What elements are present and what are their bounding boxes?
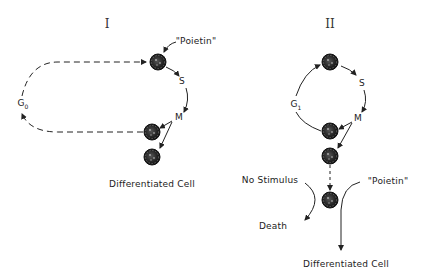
poietin-label: "Poietin" [368,176,408,186]
diagram-two [296,54,366,250]
g1-label: G1 [290,99,301,111]
g0-label: G0 [17,98,28,110]
poietin-label: "Poietin" [176,36,216,46]
cell-committed-icon [322,192,338,208]
arc-to-g1 [296,112,321,131]
differentiated-cell-label: Differentiated Cell [303,259,389,269]
m-phase-label: M [354,113,362,123]
arrow-m-to-daughter [338,123,352,148]
arrow-to-death [305,183,315,220]
differentiated-cell-label: Differentiated Cell [109,179,195,189]
diagram-two-title: II [325,17,334,31]
no-stimulus-label: No Stimulus [242,175,298,185]
arrow-to-differentiated [341,182,360,250]
s-phase-label: S [179,76,185,86]
m-phase-label: M [175,112,183,122]
arrow-to-s [341,66,356,75]
death-label: Death [259,221,287,231]
poietin-arrow [164,42,176,52]
cell-mitosis-icon [144,124,160,140]
diagram-one [22,42,188,165]
arrow-s-to-m [184,88,188,112]
arrow-to-s [166,67,179,76]
arc-from-g1 [296,65,320,96]
cell-top-icon [150,54,166,70]
cell-mitosis-icon [322,123,338,139]
arrow-s-to-m [362,90,366,112]
cell-daughter-icon [322,148,338,164]
cell-top-icon [322,54,338,70]
dashed-arrow-from-g0 [22,62,146,96]
s-phase-label: S [359,78,365,88]
arrow-m-to-diff [160,122,172,148]
diagram-one-title: I [105,17,110,31]
cell-differentiated-icon [144,149,160,165]
dashed-arrow-to-g0 [22,114,143,132]
